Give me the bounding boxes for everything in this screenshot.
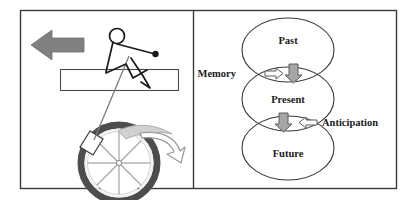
stick-figure-cyclist-icon xyxy=(106,29,159,89)
rider-torso xyxy=(106,42,113,72)
left-arrow-shape xyxy=(31,30,84,60)
ellipse-past-label: Past xyxy=(278,35,298,46)
wheel-hub xyxy=(116,160,121,165)
ellipse-present-label: Present xyxy=(271,94,305,105)
rider-head xyxy=(110,29,125,44)
figure-outer-frame xyxy=(21,11,397,189)
figure-root: Past Present Future Memory Anticipation xyxy=(0,0,411,200)
rider-hand-grip xyxy=(152,51,158,57)
rider-arm xyxy=(117,44,155,54)
rider-leg-front xyxy=(106,64,147,78)
figure-svg: Past Present Future Memory Anticipation xyxy=(0,0,411,200)
anticipation-intersection xyxy=(275,113,317,132)
ellipse-future-label: Future xyxy=(273,148,304,159)
label-anticipation: Anticipation xyxy=(322,117,378,128)
time-ellipses-panel: Past Present Future Memory Anticipation xyxy=(198,18,379,180)
cyclist-panel xyxy=(31,29,185,201)
left-arrow-icon xyxy=(31,30,84,60)
ellipse-past xyxy=(242,18,334,82)
rider-leg-rear xyxy=(131,58,150,88)
label-memory: Memory xyxy=(198,68,237,79)
